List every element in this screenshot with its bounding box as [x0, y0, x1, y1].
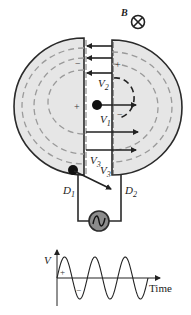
graph-plus-sign: + [60, 267, 65, 277]
voltage-graph: V Time + − [44, 250, 172, 306]
field-into-page-icon [132, 16, 145, 29]
label-b-field: B [120, 7, 128, 18]
sign-left-top: − [75, 58, 81, 69]
electric-field-arrows-left [87, 46, 112, 73]
graph-x-label: Time [149, 282, 172, 294]
sign-right-top: + [115, 59, 121, 70]
particle-start [92, 100, 102, 110]
graph-y-label: V [44, 254, 52, 266]
label-v2: V2 [98, 77, 109, 92]
sign-left-dee: + [74, 101, 80, 112]
label-v3-b: V3 [100, 164, 111, 179]
particle-exit [68, 165, 78, 175]
cyclotron-diagram: + − + − V2 V1 V3 V3 B D1 D2 V Time + − [0, 0, 191, 315]
label-v1: V1 [100, 113, 111, 128]
graph-minus-sign: − [76, 285, 81, 295]
label-d1: D1 [62, 184, 75, 199]
label-d2: D2 [124, 184, 137, 199]
sign-right-bottom: − [117, 109, 123, 120]
